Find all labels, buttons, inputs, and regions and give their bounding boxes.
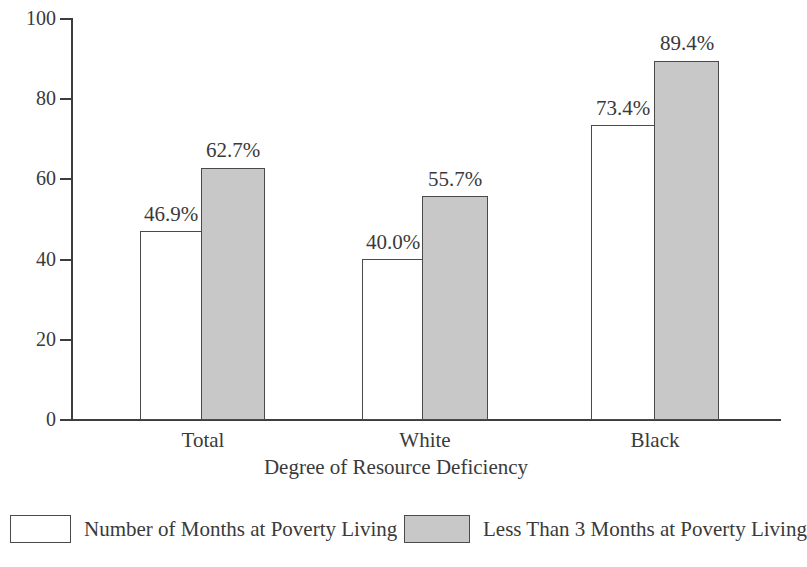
legend-swatch-open bbox=[10, 515, 71, 543]
legend-item-less-than-3-months[interactable]: Less Than 3 Months at Poverty Living bbox=[404, 512, 807, 546]
value-label-black-filled: 89.4% bbox=[626, 33, 748, 54]
chart-legend: Number of Months at Poverty Living Less … bbox=[0, 512, 792, 552]
value-label-black-open: 73.4% bbox=[562, 98, 684, 119]
value-label-total-filled: 62.7% bbox=[172, 140, 294, 161]
x-axis-title: Degree of Resource Deficiency bbox=[0, 455, 792, 479]
legend-swatch-filled bbox=[404, 515, 470, 543]
x-category-label-total: Total bbox=[142, 428, 264, 452]
legend-item-number-of-months[interactable]: Number of Months at Poverty Living bbox=[10, 512, 397, 546]
bar-white-open[interactable] bbox=[362, 259, 423, 420]
value-label-white-open: 40.0% bbox=[332, 232, 454, 253]
plot-area: 100 80 60 40 20 0 46.9% 62.7% bbox=[0, 0, 792, 500]
bar-white-filled[interactable] bbox=[422, 196, 488, 420]
bar-white-filled-column bbox=[422, 18, 488, 420]
bars-layer: 46.9% 62.7% 40.0% 55.7% 73.4% 89.4% bbox=[0, 18, 792, 420]
legend-label-open: Number of Months at Poverty Living bbox=[84, 517, 397, 541]
legend-label-filled: Less Than 3 Months at Poverty Living bbox=[483, 517, 807, 541]
value-label-white-filled: 55.7% bbox=[394, 169, 516, 190]
bar-total-open[interactable] bbox=[140, 231, 202, 420]
bar-black-filled-column bbox=[654, 18, 719, 420]
bar-black-open[interactable] bbox=[591, 125, 655, 420]
x-category-label-black: Black bbox=[594, 428, 716, 452]
bar-white-open-column bbox=[362, 18, 423, 420]
bar-black-open-column bbox=[591, 18, 655, 420]
value-label-total-open: 46.9% bbox=[110, 204, 232, 225]
x-category-label-white: White bbox=[364, 428, 486, 452]
